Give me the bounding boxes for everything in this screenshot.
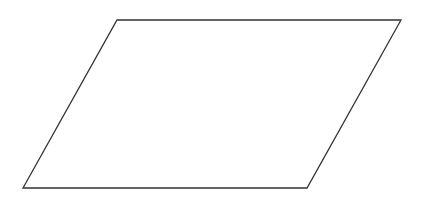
diagram-svg <box>0 0 424 207</box>
diagram-canvas <box>0 0 424 207</box>
parallelogram-shape <box>23 20 401 188</box>
